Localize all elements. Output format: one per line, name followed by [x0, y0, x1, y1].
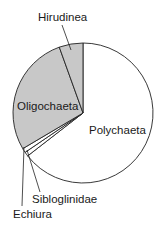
label-echiura: Echiura: [13, 209, 52, 221]
label-hirudinea: Hirudinea: [38, 12, 87, 24]
label-oligochaeta: Oligochaeta: [17, 101, 78, 113]
leader-echiura: [22, 147, 24, 206]
label-polychaeta: Polychaeta: [89, 125, 146, 137]
label-sibloglinidae: Sibloglinidae: [32, 194, 97, 206]
pie-slices: [13, 43, 153, 183]
